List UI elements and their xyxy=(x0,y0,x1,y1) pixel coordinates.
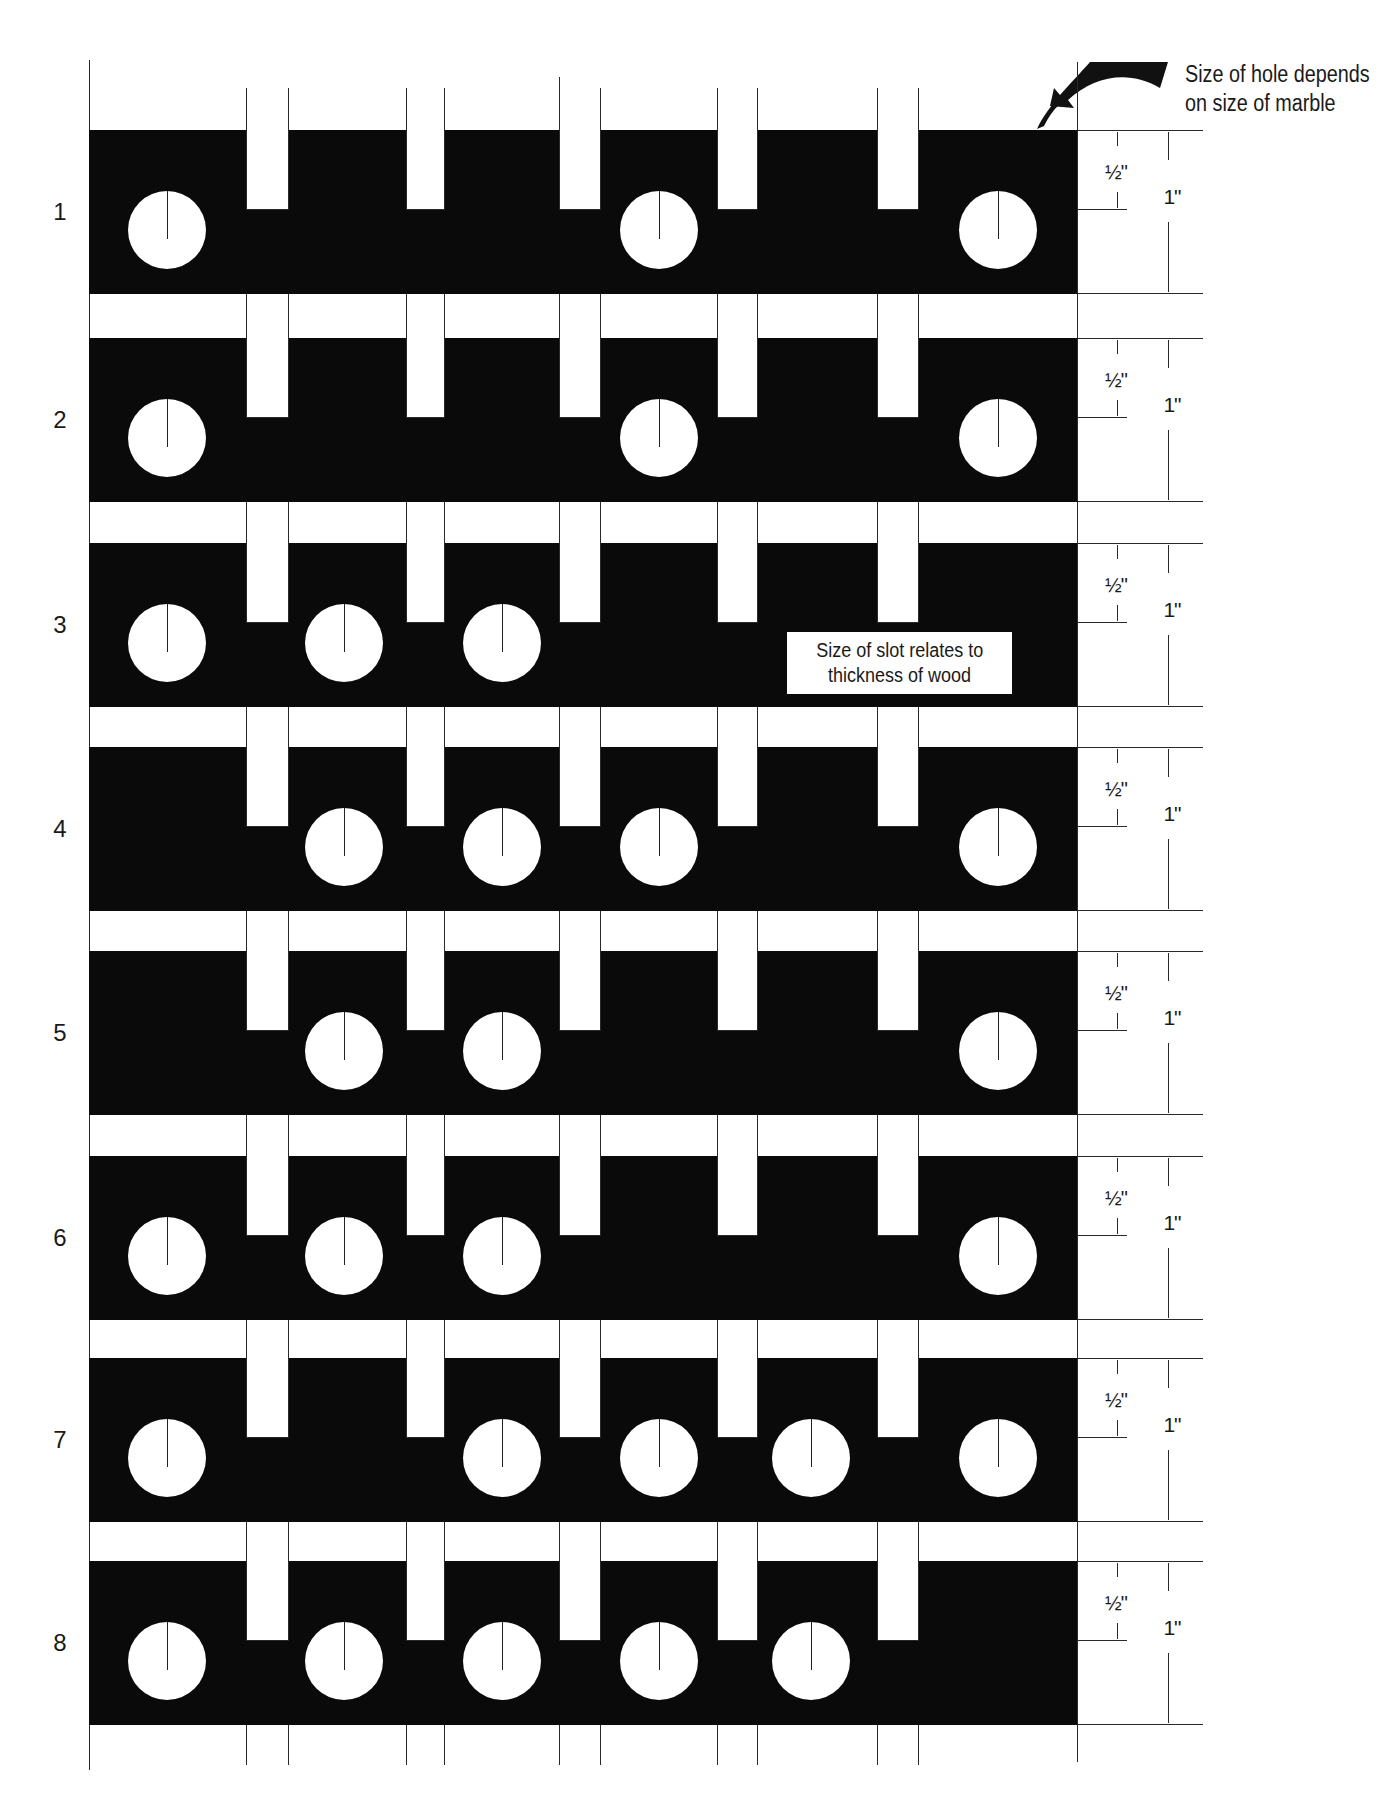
right-edge-line xyxy=(1077,62,1078,1762)
board-row-2 xyxy=(89,338,1077,502)
half-inch-arrow-top xyxy=(1117,1158,1118,1172)
marble-board-diagram: Size of hole depends on size of marble 1… xyxy=(0,0,1388,1796)
one-inch-label: 1" xyxy=(1163,393,1180,417)
board-bottom-line xyxy=(1077,293,1203,294)
marble-hole xyxy=(959,1217,1037,1295)
hole-center-mark xyxy=(502,808,503,856)
marble-hole xyxy=(463,604,541,682)
inch-arrow-bottom xyxy=(1168,1450,1169,1520)
slot xyxy=(717,1561,758,1641)
slot xyxy=(559,130,601,210)
hole-center-mark xyxy=(344,604,345,652)
slot xyxy=(559,1156,601,1236)
hole-center-mark xyxy=(167,399,168,447)
marble-hole xyxy=(463,1622,541,1700)
board-bottom-line xyxy=(1077,706,1203,707)
marble-hole xyxy=(620,399,698,477)
inch-arrow-bottom xyxy=(1168,1653,1169,1723)
board-top-line xyxy=(1077,1358,1203,1359)
row-label: 6 xyxy=(45,1224,75,1252)
slot-callout-line1: Size of slot relates to xyxy=(816,638,983,663)
row-label: 1 xyxy=(45,198,75,226)
slot xyxy=(406,747,445,827)
slot xyxy=(877,543,919,623)
board-row-5 xyxy=(89,951,1077,1115)
hole-center-mark xyxy=(998,808,999,856)
half-inch-arrow-top xyxy=(1117,1563,1118,1577)
board-row-7 xyxy=(89,1358,1077,1522)
marble-hole xyxy=(620,191,698,269)
slot xyxy=(246,747,289,827)
board-top-line xyxy=(1077,1561,1203,1562)
marble-hole xyxy=(463,808,541,886)
row-label: 5 xyxy=(45,1019,75,1047)
inch-arrow-top xyxy=(1168,953,1169,981)
marble-hole xyxy=(959,1419,1037,1497)
slot xyxy=(559,1561,601,1641)
marble-hole xyxy=(772,1419,850,1497)
marble-hole xyxy=(305,1622,383,1700)
slot xyxy=(877,951,919,1031)
slot xyxy=(559,951,601,1031)
hole-center-mark xyxy=(811,1622,812,1670)
half-inch-arrow-bottom xyxy=(1117,605,1118,621)
half-inch-arrow-top xyxy=(1117,1360,1118,1374)
inch-arrow-top xyxy=(1168,1158,1169,1186)
hole-center-mark xyxy=(502,604,503,652)
one-inch-label: 1" xyxy=(1163,1006,1180,1030)
inch-arrow-bottom xyxy=(1168,635,1169,705)
inch-arrow-top xyxy=(1168,545,1169,573)
slot xyxy=(406,951,445,1031)
hole-center-mark xyxy=(659,399,660,447)
slot-depth-line xyxy=(1077,826,1127,827)
marble-hole xyxy=(463,1217,541,1295)
half-inch-arrow-bottom xyxy=(1117,1013,1118,1029)
slot-depth-line xyxy=(1077,1437,1127,1438)
slot xyxy=(406,543,445,623)
board-bottom-line xyxy=(1077,1521,1203,1522)
half-inch-label: ½" xyxy=(1105,1389,1127,1412)
marble-hole xyxy=(620,1622,698,1700)
slot-depth-line xyxy=(1077,1235,1127,1236)
slot xyxy=(717,1156,758,1236)
slot xyxy=(717,338,758,418)
marble-hole xyxy=(128,191,206,269)
hole-center-mark xyxy=(998,1217,999,1265)
hole-center-mark xyxy=(659,808,660,856)
slot xyxy=(717,951,758,1031)
one-inch-label: 1" xyxy=(1163,1413,1180,1437)
one-inch-label: 1" xyxy=(1163,1616,1180,1640)
hole-center-mark xyxy=(998,399,999,447)
slot xyxy=(406,1561,445,1641)
board-bottom-line xyxy=(1077,910,1203,911)
hole-center-mark xyxy=(998,1419,999,1467)
half-inch-label: ½" xyxy=(1105,778,1127,801)
half-inch-arrow-top xyxy=(1117,953,1118,967)
half-inch-arrow-bottom xyxy=(1117,192,1118,208)
slot xyxy=(246,1156,289,1236)
row-label: 3 xyxy=(45,611,75,639)
hole-center-mark xyxy=(167,604,168,652)
slot xyxy=(559,747,601,827)
one-inch-label: 1" xyxy=(1163,598,1180,622)
slot xyxy=(246,951,289,1031)
hole-center-mark xyxy=(659,191,660,239)
slot xyxy=(877,1561,919,1641)
half-inch-arrow-bottom xyxy=(1117,1218,1118,1234)
row-label: 7 xyxy=(45,1426,75,1454)
half-inch-arrow-top xyxy=(1117,132,1118,146)
half-inch-arrow-bottom xyxy=(1117,1420,1118,1436)
half-inch-label: ½" xyxy=(1105,369,1127,392)
one-inch-label: 1" xyxy=(1163,185,1180,209)
inch-arrow-bottom xyxy=(1168,222,1169,292)
hole-center-mark xyxy=(998,1012,999,1060)
slot-depth-line xyxy=(1077,209,1127,210)
marble-hole xyxy=(959,399,1037,477)
board-top-line xyxy=(1077,747,1203,748)
half-inch-arrow-bottom xyxy=(1117,1623,1118,1639)
slot-depth-line xyxy=(1077,417,1127,418)
half-inch-label: ½" xyxy=(1105,574,1127,597)
slot-depth-line xyxy=(1077,1640,1127,1641)
board-top-line xyxy=(1077,1156,1203,1157)
half-inch-label: ½" xyxy=(1105,1187,1127,1210)
